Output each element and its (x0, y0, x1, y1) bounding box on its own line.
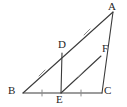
tick-mark-ef (78, 71, 84, 77)
vertex-label-f: F (102, 43, 108, 54)
vertex-label-c: C (104, 85, 111, 96)
tick-mark-bd (39, 70, 45, 76)
segment-b-a (23, 12, 113, 93)
edges-group (23, 12, 113, 93)
vertex-label-a: A (108, 1, 116, 12)
vertex-label-b: B (8, 85, 15, 96)
vertex-label-e: E (56, 94, 63, 105)
geometry-figure: A B C D E F (0, 0, 127, 107)
vertex-label-d: D (58, 39, 66, 50)
